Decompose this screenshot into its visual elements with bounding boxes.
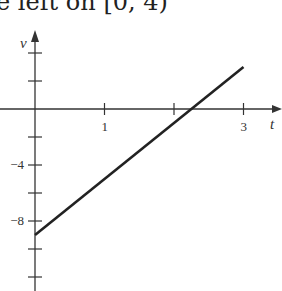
t-ticks: 13 <box>102 103 248 134</box>
t-tick-label: 3 <box>241 119 248 134</box>
t-axis-arrow-icon <box>272 105 282 113</box>
series-line-path <box>35 67 244 235</box>
v-axis-label: v <box>20 35 27 51</box>
v-axis-arrow-icon <box>31 30 39 42</box>
t-axis-label: t <box>270 116 275 132</box>
v-ticks: −4−8 <box>10 53 42 277</box>
v-tick-label: −8 <box>10 213 24 228</box>
series-line <box>35 67 244 235</box>
v-tick-label: −4 <box>10 157 24 172</box>
chart: 13 −4−8 t v <box>0 0 282 291</box>
t-tick-label: 1 <box>102 119 109 134</box>
